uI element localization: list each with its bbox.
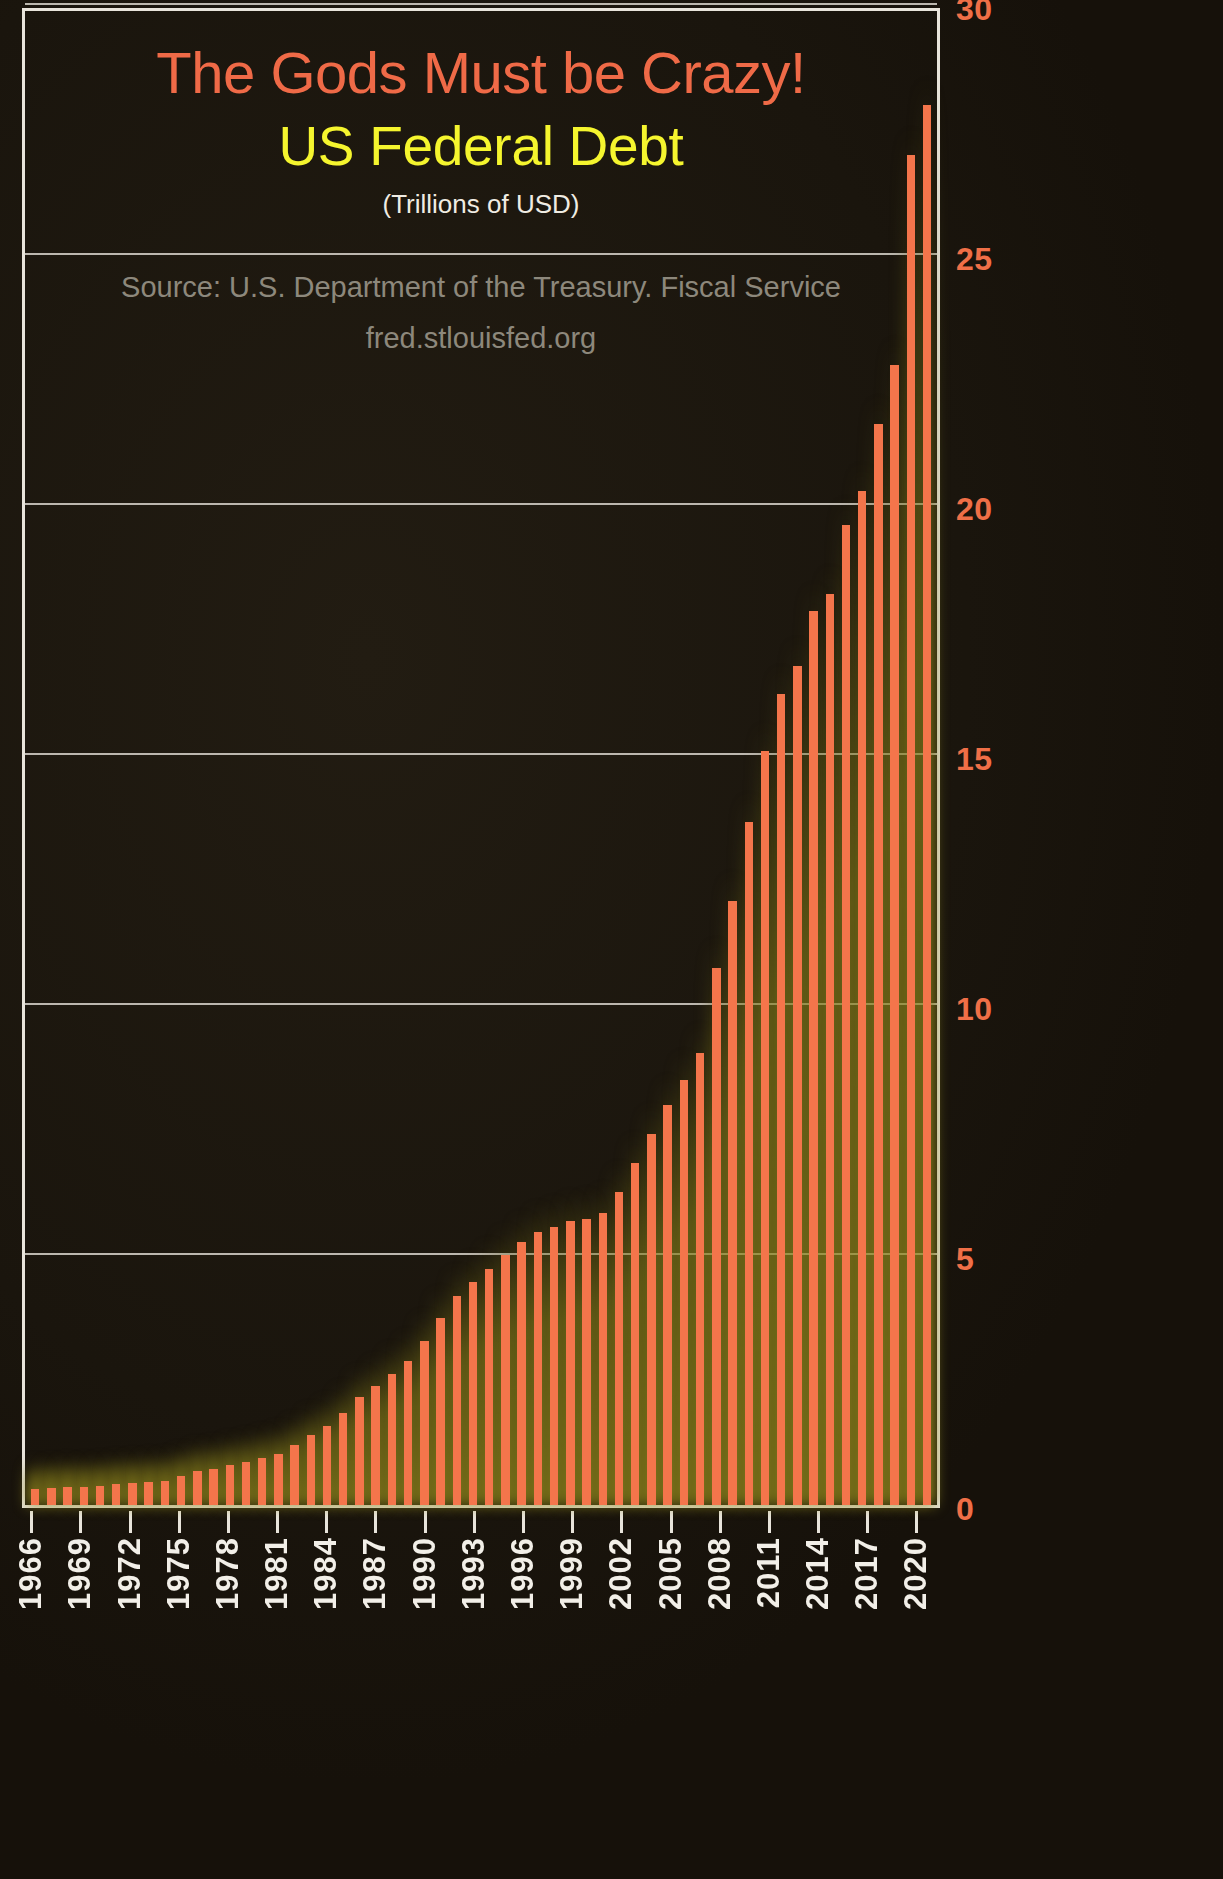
bar-slot [76, 11, 92, 1505]
bar [599, 1213, 607, 1505]
x-axis: 1966196919721975197819811984198719901993… [22, 1511, 940, 1871]
bar [274, 1454, 282, 1506]
bar [501, 1255, 509, 1505]
bar [258, 1458, 266, 1505]
bar [436, 1318, 444, 1506]
bar [144, 1482, 152, 1506]
bar-slot [319, 11, 335, 1505]
bar [226, 1465, 234, 1505]
bar-slot [822, 11, 838, 1505]
bar-slot [773, 11, 789, 1505]
bar [680, 1080, 688, 1506]
bar [858, 491, 866, 1506]
bar [404, 1361, 412, 1506]
x-axis-tick-label: 1993 [456, 1537, 492, 1610]
x-axis-tick-mark [30, 1511, 33, 1533]
x-axis-tick-label: 1981 [259, 1537, 295, 1610]
bar [550, 1227, 558, 1506]
bar-slot [481, 11, 497, 1505]
x-axis-tick-mark [817, 1511, 820, 1533]
x-axis-tick-label: 1987 [357, 1537, 393, 1610]
x-axis-tick-mark [325, 1511, 328, 1533]
bar [663, 1105, 671, 1505]
bar-slot [724, 11, 740, 1505]
bar-slot [238, 11, 254, 1505]
bar-slot [692, 11, 708, 1505]
y-axis-tick-label: 15 [956, 741, 993, 778]
x-axis-tick-label: 2014 [800, 1537, 836, 1610]
x-axis-tick-mark [719, 1511, 722, 1533]
x-axis-tick-label: 1966 [13, 1537, 49, 1610]
bar [47, 1488, 55, 1505]
bar-slot [854, 11, 870, 1505]
bar-slot [530, 11, 546, 1505]
bar [290, 1445, 298, 1505]
y-axis-tick-label: 20 [956, 491, 993, 528]
x-axis-tick-mark [276, 1511, 279, 1533]
bar [63, 1487, 71, 1506]
bar [534, 1232, 542, 1505]
bar-slot [757, 11, 773, 1505]
x-axis-tick-label: 1996 [505, 1537, 541, 1610]
bar-slot [578, 11, 594, 1505]
bar [485, 1269, 493, 1506]
x-axis-tick-label: 2020 [898, 1537, 934, 1610]
bar-slot [903, 11, 919, 1505]
x-axis-tick-mark [866, 1511, 869, 1533]
x-axis-tick-mark [424, 1511, 427, 1533]
bar [615, 1192, 623, 1505]
bar [517, 1242, 525, 1506]
chart-canvas: The Gods Must be Crazy! US Federal Debt … [0, 0, 1223, 1879]
bar-slot [676, 11, 692, 1505]
x-axis-tick-label: 2011 [751, 1537, 787, 1608]
bar [80, 1487, 88, 1506]
bar [388, 1374, 396, 1506]
bar-slot [741, 11, 757, 1505]
x-axis-tick-mark [670, 1511, 673, 1533]
x-axis-tick-label: 2008 [702, 1537, 738, 1610]
bar [745, 822, 753, 1506]
bar [647, 1134, 655, 1506]
bar-slot [627, 11, 643, 1505]
bar-slot [789, 11, 805, 1505]
x-axis-tick-label: 1978 [210, 1537, 246, 1610]
bar [923, 105, 931, 1505]
y-axis-tick-label: 30 [956, 0, 993, 28]
x-axis-tick-label: 1969 [62, 1537, 98, 1610]
bar [209, 1469, 217, 1506]
bar [842, 525, 850, 1506]
bar-slot [27, 11, 43, 1505]
bar [339, 1413, 347, 1506]
bar-slot [222, 11, 238, 1505]
y-axis: 051015202530 [956, 0, 1076, 1530]
bar-slot [303, 11, 319, 1505]
y-axis-tick-label: 0 [956, 1491, 974, 1528]
x-axis-tick-mark [768, 1511, 771, 1533]
plot-area [22, 8, 940, 1508]
y-axis-tick-label: 10 [956, 991, 993, 1028]
bar-slot [497, 11, 513, 1505]
x-axis-tick-label: 1999 [554, 1537, 590, 1610]
bar [242, 1462, 250, 1506]
bar-slot [400, 11, 416, 1505]
x-axis-tick-label: 1990 [407, 1537, 443, 1610]
x-axis-tick-mark [620, 1511, 623, 1533]
bar-slot [254, 11, 270, 1505]
bar [96, 1486, 104, 1506]
x-axis-tick-mark [522, 1511, 525, 1533]
bar [761, 751, 769, 1506]
x-axis-tick-label: 1972 [112, 1537, 148, 1610]
bar-slot [92, 11, 108, 1505]
bar [777, 694, 785, 1505]
bar-slot [141, 11, 157, 1505]
bar [890, 365, 898, 1505]
bar-slot [465, 11, 481, 1505]
bar [307, 1435, 315, 1506]
x-axis-tick-label: 2005 [653, 1537, 689, 1610]
bar [809, 611, 817, 1506]
bar-slot [919, 11, 935, 1505]
bar [193, 1471, 201, 1505]
bar [582, 1219, 590, 1505]
y-axis-tick-label: 5 [956, 1241, 974, 1278]
bar-slot [611, 11, 627, 1505]
